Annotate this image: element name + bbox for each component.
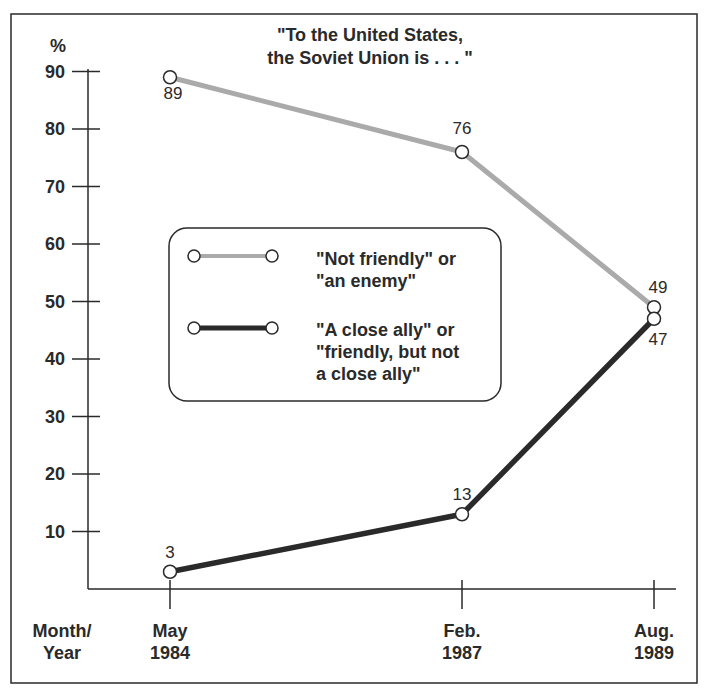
data-label: 3 xyxy=(165,543,174,562)
y-tick-label: 90 xyxy=(45,62,65,82)
data-label: 47 xyxy=(649,330,668,349)
legend-marker-icon xyxy=(188,250,200,262)
svg-text:Year: Year xyxy=(43,643,81,663)
x-tick-label: Aug. xyxy=(634,621,674,641)
title-line-1: "To the United States, xyxy=(277,25,463,45)
legend-marker-icon xyxy=(266,250,278,262)
svg-text:a close ally": a close ally" xyxy=(316,364,421,384)
x-tick-label: 1984 xyxy=(150,643,190,663)
legend-marker-icon xyxy=(188,322,200,334)
x-tick-label: Feb. xyxy=(443,621,480,641)
chart-title: "To the United States, the Soviet Union … xyxy=(267,25,473,68)
svg-text:"Not friendly" or: "Not friendly" or xyxy=(316,249,456,269)
legend-marker-icon xyxy=(266,322,278,334)
x-axis-label: Month/ Year xyxy=(33,621,92,663)
x-tick-label: May xyxy=(152,621,187,641)
x-tick-label: 1987 xyxy=(442,643,482,663)
data-point-marker-icon xyxy=(164,565,177,578)
data-point-marker-icon xyxy=(164,71,177,84)
svg-text:"A close ally" or: "A close ally" or xyxy=(316,320,454,340)
svg-text:Month/: Month/ xyxy=(33,621,92,641)
x-tick-label: 1989 xyxy=(634,643,674,663)
y-axis-label: % xyxy=(50,36,66,56)
y-tick-label: 70 xyxy=(45,177,65,197)
data-point-marker-icon xyxy=(456,508,469,521)
data-label: 76 xyxy=(453,119,472,138)
x-axis: Month/ Year May1984Feb.1987Aug.1989 xyxy=(33,580,676,663)
y-tick-label: 40 xyxy=(45,349,65,369)
line-chart: "To the United States, the Soviet Union … xyxy=(0,0,709,692)
legend: "Not friendly" or "an enemy" "A close al… xyxy=(169,228,501,401)
y-tick-label: 10 xyxy=(45,522,65,542)
data-label: 49 xyxy=(649,278,668,297)
y-tick-label: 20 xyxy=(45,464,65,484)
y-tick-label: 30 xyxy=(45,407,65,427)
svg-text:"an enemy": "an enemy" xyxy=(316,271,416,291)
title-line-2: the Soviet Union is . . . " xyxy=(267,48,473,68)
data-point-marker-icon xyxy=(648,312,661,325)
data-point-marker-icon xyxy=(456,146,469,159)
y-tick-label: 80 xyxy=(45,119,65,139)
y-tick-label: 50 xyxy=(45,292,65,312)
y-tick-label: 60 xyxy=(45,234,65,254)
data-label: 89 xyxy=(164,84,183,103)
svg-text:"friendly, but not: "friendly, but not xyxy=(316,342,459,362)
y-axis: % 102030405060708090 xyxy=(45,36,100,589)
data-label: 13 xyxy=(453,485,472,504)
